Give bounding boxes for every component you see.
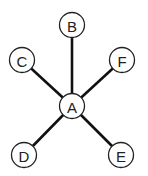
node-e: E [109,143,134,168]
node-d: D [12,143,37,168]
edges [22,25,122,155]
node-label-a: A [67,99,77,116]
star-graph-diagram: A B C F D E [0,0,148,176]
node-label-c: C [17,53,28,70]
node-b: B [60,13,85,38]
node-label-b: B [67,18,77,35]
node-label-e: E [116,148,126,165]
node-label-d: D [19,148,30,165]
node-label-f: F [117,53,126,70]
node-a: A [60,94,85,119]
node-f: F [110,48,135,73]
node-c: C [10,48,35,73]
